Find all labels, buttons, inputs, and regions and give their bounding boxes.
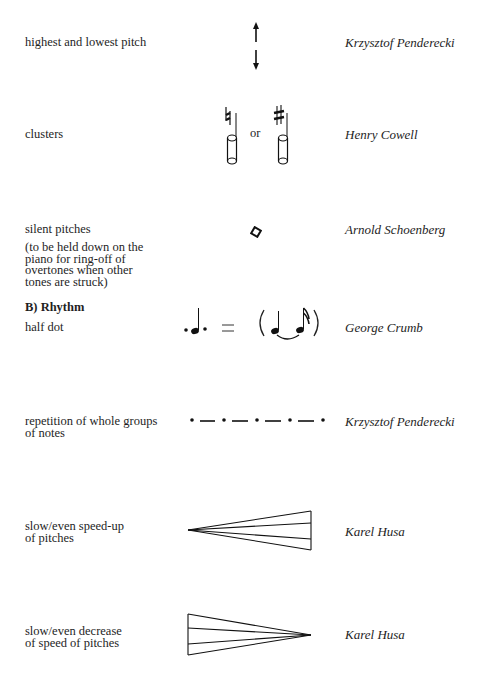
sharp-cluster-icon xyxy=(273,105,293,169)
section-heading-rhythm: B) Rhythm xyxy=(25,300,84,315)
entry-description: silent pitches xyxy=(25,223,91,236)
entry-description: of speed of pitches xyxy=(25,637,119,650)
narrowing-fan-icon xyxy=(185,611,315,659)
widening-fan-icon xyxy=(185,508,315,554)
entry-composer: Henry Cowell xyxy=(345,128,418,141)
entry-composer: Krzysztof Penderecki xyxy=(345,415,455,428)
entry-note: (to be held down on the piano for ring-o… xyxy=(25,242,143,288)
entry-composer: Karel Husa xyxy=(345,628,405,641)
entry-composer: George Crumb xyxy=(345,321,423,334)
entry-composer: Arnold Schoenberg xyxy=(345,223,445,236)
entry-description: half dot xyxy=(25,321,64,334)
up-down-arrows-icon xyxy=(248,22,264,70)
half-dot-notation-icon xyxy=(182,303,327,343)
diamond-notehead-icon xyxy=(250,226,262,238)
notation-page: highest and lowest pitch Krzysztof Pende… xyxy=(0,0,477,694)
or-connector: or xyxy=(250,126,260,141)
entry-description: clusters xyxy=(25,128,63,141)
entry-description: highest and lowest pitch xyxy=(25,36,146,49)
entry-composer: Karel Husa xyxy=(345,525,405,538)
entry-description: of pitches xyxy=(25,532,74,545)
dot-dash-repetition-icon xyxy=(188,414,328,426)
natural-cluster-icon xyxy=(222,105,242,169)
entry-description: of notes xyxy=(25,427,65,440)
entry-composer: Krzysztof Penderecki xyxy=(345,36,455,49)
